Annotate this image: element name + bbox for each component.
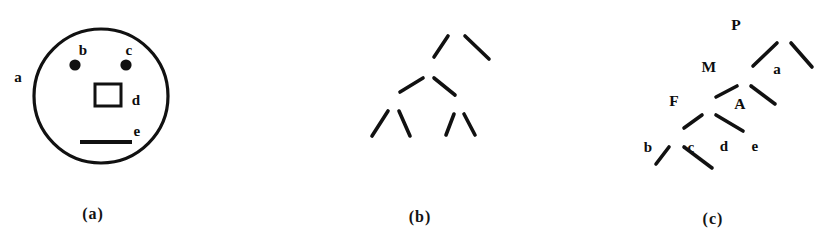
edge-A-e — [464, 114, 475, 135]
scene-label-d: d — [132, 93, 141, 108]
edge-F-b — [656, 147, 669, 164]
edge-Q-e — [751, 86, 775, 104]
edge-F-c — [399, 111, 410, 136]
caption-c: (c) — [703, 211, 724, 227]
edge-P-a — [465, 36, 489, 59]
panel-c-tree: R Q a K e F d b c — [560, 0, 836, 248]
edge-P-M — [434, 36, 448, 57]
caption-a: (a) — [82, 206, 104, 222]
panel-c-edges — [560, 0, 836, 248]
scene-label-e: e — [134, 124, 141, 139]
scene-label-b: b — [79, 43, 88, 58]
caption-b: (b) — [409, 209, 432, 225]
edge-M-F — [400, 78, 423, 92]
scene-label-c: c — [126, 43, 133, 58]
edge-Q-K — [716, 86, 737, 97]
scene-label-a: a — [14, 70, 22, 85]
edge-R-Q — [753, 43, 777, 66]
edge-R-a — [791, 43, 812, 67]
edge-K-F — [684, 115, 702, 128]
edge-K-d — [716, 115, 743, 131]
scene-dot-c — [120, 59, 131, 70]
edge-F-c — [684, 147, 712, 168]
panel-a-scene: a b c d e — [0, 0, 280, 248]
edge-F-b — [372, 111, 388, 136]
figure-root: a b c d e P M a F A b c d e — [0, 0, 836, 248]
scene-square-d — [95, 84, 121, 106]
scene-dot-b — [69, 59, 80, 70]
edge-A-d — [446, 114, 454, 135]
edge-M-A — [434, 78, 455, 95]
